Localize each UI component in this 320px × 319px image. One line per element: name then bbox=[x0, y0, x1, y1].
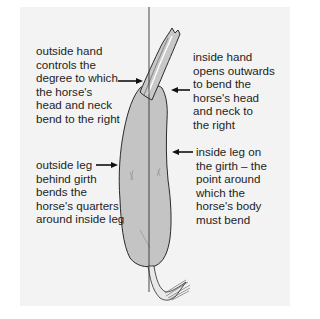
horse-illustration bbox=[119, 28, 190, 300]
label-inside-hand: inside hand opens outwards to bend the h… bbox=[193, 50, 275, 132]
outside-hand-arrow bbox=[118, 78, 143, 84]
inside-leg-arrow bbox=[172, 149, 193, 155]
label-outside-leg: outside leg behind girth bends the horse… bbox=[36, 158, 124, 226]
label-outside-hand: outside hand controls the degree to whic… bbox=[36, 44, 120, 126]
label-inside-leg: inside leg on the girth – the point arou… bbox=[196, 145, 267, 227]
inside-hand-arrow bbox=[171, 87, 190, 93]
